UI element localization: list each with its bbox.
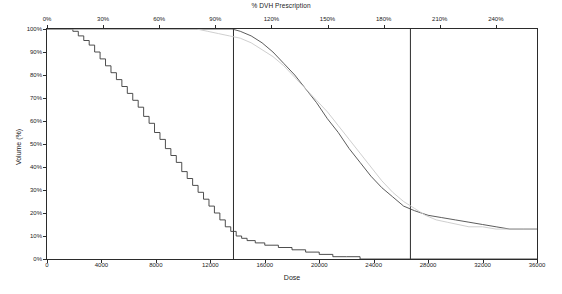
x-axis-label: Dose [46,274,538,281]
x-tick-label: 36000 [529,262,546,268]
series-line-structure-3-light [47,29,537,229]
top-tick-label: 90% [209,16,221,22]
y-tick-label: 90% [30,49,42,55]
plot-svg [47,29,537,259]
x-tick-label: 32000 [474,262,491,268]
y-tick-label: 0% [33,256,42,262]
y-tick-label: 20% [30,210,42,216]
x-axis: 0400080001200016000200002400028000320003… [46,260,538,274]
series-line-structure-1-staircase [47,29,537,259]
x-tick-label: 12000 [202,262,219,268]
top-tick-label: 0% [43,16,52,22]
plot-area [46,28,538,260]
top-axis-title: % DVH Prescription [0,2,562,9]
y-axis: 0%10%20%30%40%50%60%70%80%90%100% [20,28,46,260]
y-tick-label: 80% [30,72,42,78]
y-tick-label: 50% [30,141,42,147]
y-tick-label: 30% [30,187,42,193]
series-line-structure-2-dark [47,29,537,229]
dvh-chart: % DVH Prescription 0%30%60%90%120%150%18… [0,0,562,294]
y-tick-label: 10% [30,233,42,239]
x-tick-label: 20000 [311,262,328,268]
top-tick-label: 210% [432,16,447,22]
top-tick-label: 150% [320,16,335,22]
x-tick-label: 28000 [420,262,437,268]
x-tick-label: 16000 [256,262,273,268]
y-tick-label: 40% [30,164,42,170]
y-axis-label: Volume (%) [15,129,22,165]
y-tick-label: 70% [30,95,42,101]
y-tick-label: 60% [30,118,42,124]
top-tick-label: 60% [153,16,165,22]
y-tick-label: 100% [27,26,42,32]
top-axis: 0%30%60%90%120%150%180%210%240% [46,16,538,28]
top-tick-label: 30% [97,16,109,22]
top-tick-label: 180% [376,16,391,22]
top-tick-label: 120% [264,16,279,22]
top-tick-label: 240% [488,16,503,22]
x-tick-label: 8000 [149,262,162,268]
x-tick-label: 4000 [95,262,108,268]
x-tick-label: 0 [45,262,48,268]
x-tick-label: 24000 [365,262,382,268]
